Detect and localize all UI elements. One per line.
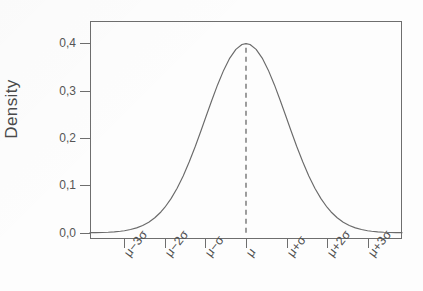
y-tick-mark — [80, 91, 90, 92]
chart-figure: Density 0,00,10,20,30,4 μ−3σμ−2σμ−σμμ+σμ… — [0, 0, 423, 291]
y-tick-label: 0,3 — [40, 85, 76, 97]
y-tick-label: 0,4 — [40, 37, 76, 49]
y-tick-label: 0,0 — [40, 227, 76, 239]
y-tick-mark — [80, 43, 90, 44]
y-tick-mark — [80, 233, 90, 234]
y-tick-mark — [80, 185, 90, 186]
plot-frame — [90, 21, 402, 239]
y-axis-title: Density — [2, 54, 28, 164]
y-tick-mark — [80, 138, 90, 139]
x-tick-label: μ — [243, 245, 259, 259]
y-tick-label: 0,1 — [40, 179, 76, 191]
y-tick-label: 0,2 — [40, 132, 76, 144]
